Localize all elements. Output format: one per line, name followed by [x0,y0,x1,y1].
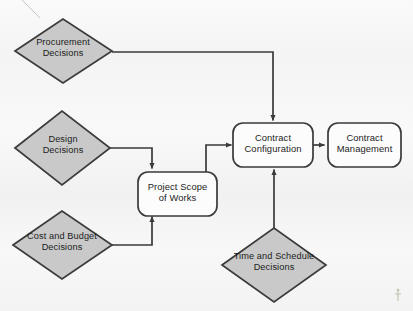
node-contract-configuration [233,123,313,167]
node-time-and-schedule-decisions [222,228,326,302]
node-design-decisions [15,111,110,185]
edge-project-scope-to-contract-configuration [206,145,232,172]
node-cost-and-budget-decisions [13,211,112,279]
edge-procurement-to-contract-configuration [112,52,273,121]
scan-artifact-speck [395,289,401,302]
flowchart-graphic [0,0,413,311]
node-project-scope-of-works [138,172,217,216]
diagram-canvas: Procurement Decisions Design Decisions C… [0,0,413,311]
node-contract-management [328,123,401,167]
scan-artifact-corner [22,0,40,18]
edge-cost-budget-to-project-scope [112,217,152,246]
edge-design-to-project-scope [110,148,152,169]
node-procurement-decisions [15,19,112,83]
